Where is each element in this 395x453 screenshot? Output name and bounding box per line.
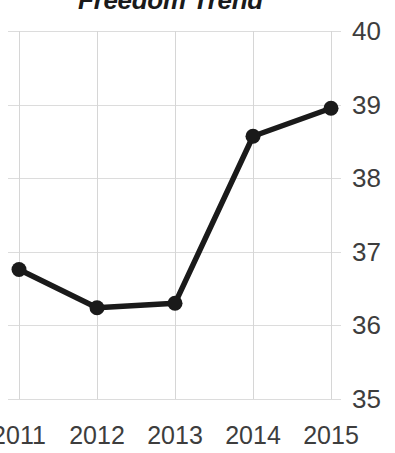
line-chart: Freedom Trend 403938373635 2011201220132…	[0, 0, 395, 453]
y-axis-tick-label: 36	[352, 312, 394, 338]
y-axis-tick-label: 35	[352, 386, 394, 412]
chart-title: Freedom Trend	[0, 0, 341, 15]
data-point-marker[interactable]	[168, 296, 183, 311]
y-axis-tick-label: 40	[352, 18, 394, 44]
x-axis-tick-label: 2012	[57, 421, 137, 449]
y-axis-tick-label: 38	[352, 165, 394, 191]
series-line	[19, 108, 331, 307]
x-axis-tick-label: 2014	[213, 421, 293, 449]
data-point-marker[interactable]	[324, 101, 339, 116]
y-axis-tick-label: 37	[352, 239, 394, 265]
y-axis-tick-label: 39	[352, 92, 394, 118]
data-point-marker[interactable]	[12, 262, 27, 277]
chart-series	[8, 31, 341, 399]
x-axis-tick-label: 2015	[291, 421, 371, 449]
data-point-marker[interactable]	[90, 300, 105, 315]
data-point-marker[interactable]	[246, 129, 261, 144]
x-axis-tick-label: 2013	[135, 421, 215, 449]
plot-area	[8, 31, 341, 399]
x-axis-tick-label: 2011	[0, 421, 59, 449]
